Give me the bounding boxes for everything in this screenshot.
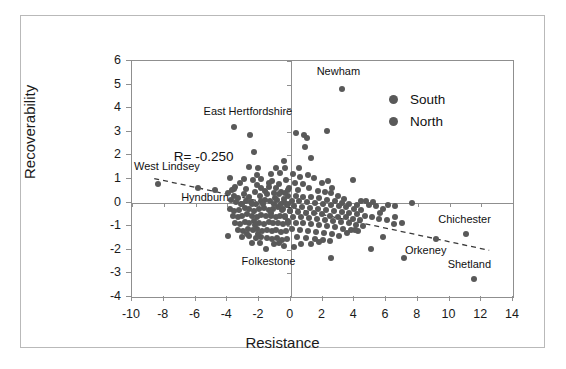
- scatter-point: [266, 184, 272, 190]
- scatter-point: [336, 233, 342, 239]
- scatter-point: [308, 241, 314, 247]
- x-tick: [290, 296, 291, 301]
- scatter-point: [285, 187, 291, 193]
- y-tick: [126, 178, 131, 179]
- scatter-point: [225, 233, 231, 239]
- y-tick: [126, 249, 131, 250]
- x-tick-label: 12: [473, 307, 487, 321]
- scatter-point: [338, 219, 344, 225]
- scatter-point: [287, 208, 293, 214]
- y-tick-label: 0: [97, 195, 121, 209]
- scatter-point: [298, 241, 304, 247]
- x-axis-inner-tick: [481, 203, 482, 207]
- scatter-point: [227, 175, 233, 181]
- scatter-point: [392, 203, 398, 209]
- scatter-point: [293, 220, 299, 226]
- scatter-point: [300, 181, 306, 187]
- scatter-point: [322, 217, 328, 223]
- scatter-point: [391, 221, 397, 227]
- x-tick-label: 4: [350, 307, 357, 321]
- y-axis-inner-tick: [287, 85, 291, 86]
- scatter-point: [304, 135, 310, 141]
- legend-label-south: South: [410, 92, 445, 107]
- scatter-point: [255, 231, 261, 237]
- scatter-point: [249, 240, 255, 246]
- legend-marker-north-icon: [389, 117, 398, 126]
- y-tick-label: 2: [97, 147, 121, 161]
- x-tick: [195, 296, 196, 301]
- scatter-point: [229, 187, 235, 193]
- legend-label-north: North: [410, 114, 443, 129]
- scatter-point: [273, 185, 279, 191]
- scatter-point: [369, 214, 375, 220]
- y-tick: [126, 154, 131, 155]
- scatter-point: [306, 185, 312, 191]
- scatter-point: [282, 214, 288, 220]
- legend-item-south: South: [389, 88, 445, 110]
- x-tick-label: -10: [122, 307, 140, 321]
- y-tick-label: 6: [97, 53, 121, 67]
- scatter-point: [263, 246, 269, 252]
- scatter-point: [254, 172, 260, 178]
- scatter-point: [308, 155, 314, 161]
- x-tick: [480, 296, 481, 301]
- x-axis-inner-tick: [450, 203, 451, 207]
- x-axis-inner-tick: [196, 203, 197, 207]
- y-tick: [126, 225, 131, 226]
- scatter-point: [303, 235, 309, 241]
- point-annotation: East Hertfordshire: [204, 105, 293, 117]
- x-axis-inner-tick: [513, 203, 514, 207]
- y-tick-label: 5: [97, 77, 121, 91]
- scatter-point: [315, 188, 321, 194]
- legend-marker-south-icon: [389, 95, 398, 104]
- scatter-point: [292, 180, 298, 186]
- x-tick-label: -8: [157, 307, 168, 321]
- x-tick-label: 6: [382, 307, 389, 321]
- y-tick: [126, 272, 131, 273]
- x-tick: [131, 296, 132, 301]
- point-annotation: Orkeney: [405, 244, 447, 256]
- scatter-point: [297, 174, 303, 180]
- y-tick-label: 3: [97, 124, 121, 138]
- y-tick-label: -1: [97, 218, 121, 232]
- y-axis-inner-tick: [287, 132, 291, 133]
- scatter-point: [324, 128, 330, 134]
- scatter-point: [254, 182, 260, 188]
- scatter-point: [306, 215, 312, 221]
- x-axis-title: Resistance: [21, 334, 544, 351]
- x-tick: [385, 296, 386, 301]
- scatter-point: [295, 187, 301, 193]
- y-axis-inner-tick: [287, 250, 291, 251]
- y-tick: [126, 202, 131, 203]
- y-tick-label: -3: [97, 265, 121, 279]
- x-tick-label: -4: [221, 307, 232, 321]
- x-tick-label: -2: [252, 307, 263, 321]
- point-annotation: Hyndburn: [181, 191, 229, 203]
- y-tick-label: -2: [97, 242, 121, 256]
- scatter-point: [316, 239, 322, 245]
- y-tick: [126, 84, 131, 85]
- point-annotation: Chichester: [438, 213, 491, 225]
- y-tick: [126, 296, 131, 297]
- x-tick-label: 10: [442, 307, 456, 321]
- y-axis-title: Recoverability: [21, 85, 38, 179]
- x-tick-label: 2: [318, 307, 325, 321]
- point-annotation: Newham: [317, 65, 360, 77]
- x-tick: [226, 296, 227, 301]
- scatter-point: [377, 210, 383, 216]
- scatter-point: [241, 176, 247, 182]
- scatter-point: [339, 86, 345, 92]
- scatter-point: [231, 124, 237, 130]
- scatter-point: [278, 201, 284, 207]
- plot-area: NewhamEast HertfordshireWest LindseyHynd…: [131, 60, 514, 298]
- scatter-point: [376, 216, 382, 222]
- x-tick-label: 0: [286, 307, 293, 321]
- x-tick: [353, 296, 354, 301]
- scatter-point: [252, 222, 258, 228]
- x-axis-inner-tick: [164, 203, 165, 207]
- x-tick: [322, 296, 323, 301]
- scatter-point: [368, 246, 374, 252]
- x-tick: [512, 296, 513, 301]
- figure-frame: Recoverability Resistance NewhamEast Her…: [20, 15, 545, 348]
- x-tick: [163, 296, 164, 301]
